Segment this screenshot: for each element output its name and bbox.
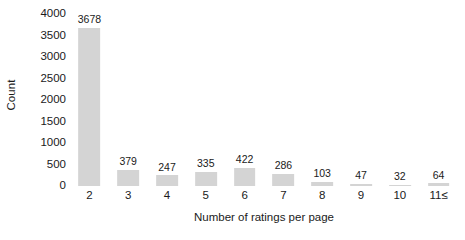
- bar: [428, 183, 450, 186]
- y-axis-title: Count: [2, 0, 20, 190]
- bar-value-label: 32: [394, 171, 406, 182]
- bar-group: 379: [109, 14, 148, 186]
- plot-area: 3678379247335422286103473264: [70, 14, 458, 186]
- bar-group: 335: [186, 14, 225, 186]
- y-axis-tick-label: 4000: [20, 8, 66, 20]
- y-axis-tick-label: 3500: [20, 30, 66, 42]
- bar: [273, 174, 295, 186]
- x-axis-tick-label: 8: [319, 190, 325, 202]
- y-axis-tick-label: 0: [20, 180, 66, 192]
- y-axis-tick-label: 2000: [20, 94, 66, 106]
- x-axis-tick-label: 7: [280, 190, 286, 202]
- bar: [234, 168, 256, 186]
- x-axis-tick-label: 10: [393, 190, 406, 202]
- y-axis-tick-label: 500: [20, 159, 66, 171]
- bar: [350, 184, 372, 186]
- x-axis-tick-labels: 234567891011≤: [70, 190, 458, 206]
- x-axis-tick-label: 11≤: [429, 190, 447, 202]
- bar-group: 422: [225, 14, 264, 186]
- bar-group: 32: [380, 14, 419, 186]
- bar-value-label: 247: [158, 162, 176, 173]
- bar-group: 286: [264, 14, 303, 186]
- y-axis-tick-label: 1000: [20, 137, 66, 149]
- bar-value-label: 103: [313, 168, 331, 179]
- bar-value-label: 379: [119, 156, 137, 167]
- bar: [117, 170, 139, 186]
- bar: [156, 175, 178, 186]
- bar-value-label: 335: [197, 158, 215, 169]
- x-axis-tick-label: 5: [203, 190, 209, 202]
- bar-value-label: 422: [236, 154, 254, 165]
- x-axis-tick-label: 2: [86, 190, 92, 202]
- bar-group: 47: [342, 14, 381, 186]
- bar-value-label: 64: [433, 170, 445, 181]
- y-axis-tick-label: 3000: [20, 51, 66, 63]
- y-axis-tick-label: 2500: [20, 73, 66, 85]
- y-axis-title-label: Count: [5, 79, 17, 110]
- bar-group: 247: [148, 14, 187, 186]
- bar-value-label: 286: [275, 160, 293, 171]
- x-axis-title: Number of ratings per page: [70, 211, 458, 223]
- x-axis-tick-label: 4: [164, 190, 170, 202]
- bar: [389, 185, 411, 187]
- bar: [195, 172, 217, 186]
- bar-group: 103: [303, 14, 342, 186]
- bar-value-label: 3678: [78, 14, 101, 25]
- bar-value-label: 47: [355, 170, 367, 181]
- bar: [311, 182, 333, 186]
- bar-group: 3678: [70, 14, 109, 186]
- x-axis-tick-label: 6: [241, 190, 247, 202]
- y-axis-tick-labels: 05001000150020002500300035004000: [20, 0, 66, 200]
- bar-group: 64: [419, 14, 458, 186]
- y-axis-tick-label: 1500: [20, 116, 66, 128]
- x-axis-tick-label: 3: [125, 190, 131, 202]
- x-axis-tick-label: 9: [358, 190, 364, 202]
- bar-chart-figure: Count 05001000150020002500300035004000 3…: [0, 0, 465, 240]
- bar: [79, 28, 101, 186]
